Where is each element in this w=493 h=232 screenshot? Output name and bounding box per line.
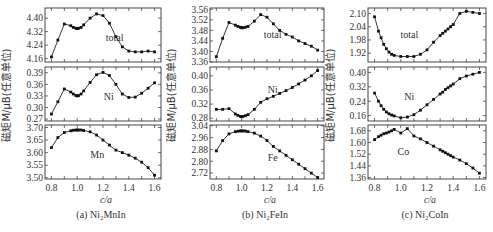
data-point: [382, 108, 385, 111]
data-point: [291, 158, 294, 161]
y-tick-label: 0.30: [26, 103, 43, 113]
data-point: [465, 162, 468, 165]
data-point: [259, 135, 262, 138]
x-tick-label: 0.8: [210, 183, 222, 193]
data-point: [215, 55, 218, 58]
data-point: [382, 43, 385, 46]
data-point: [114, 149, 117, 152]
y-tick-label: 3.60: [26, 148, 43, 158]
data-point: [385, 47, 388, 50]
data-point: [95, 134, 98, 137]
data-point: [478, 71, 481, 74]
data-point: [444, 88, 447, 91]
x-tick-label: 1.2: [421, 183, 433, 193]
chart-2: 3.363.403.443.483.523.56total0.280.320.3…: [165, 5, 324, 221]
data-point: [153, 174, 156, 177]
data-point: [478, 172, 481, 175]
data-point: [393, 128, 396, 131]
series-label: Co: [398, 146, 410, 157]
data-point: [108, 22, 111, 25]
data-point: [147, 166, 150, 169]
data-point: [236, 114, 239, 117]
y-tick-label: 2.72: [191, 168, 208, 178]
y-tick-label: 0.40: [191, 71, 208, 81]
data-point: [406, 127, 409, 130]
y-tick-label: 3.40: [191, 47, 208, 57]
data-point: [432, 98, 435, 101]
data-point: [77, 94, 80, 97]
y-tick-label: 1.68: [349, 126, 366, 136]
data-point: [412, 113, 415, 116]
panel-ni: 0.270.300.330.360.39Ni: [26, 67, 161, 124]
y-axis-label: 磁矩M/μB(任意单位): [0, 48, 12, 141]
x-tick-label: 1.6: [312, 183, 324, 193]
data-point: [452, 83, 455, 86]
y-tick-label: 3.50: [26, 173, 43, 183]
figure-canvas: 4.164.244.324.40total0.270.300.330.360.3…: [0, 0, 493, 232]
chart-1: 4.164.244.324.40total0.270.300.330.360.3…: [0, 8, 161, 221]
data-point: [72, 93, 75, 96]
data-point: [127, 154, 130, 157]
y-tick-label: 4.16: [26, 54, 43, 64]
data-point: [259, 101, 262, 104]
data-point: [377, 30, 380, 33]
data-point: [316, 69, 319, 72]
y-tick-label: 0.24: [349, 97, 366, 107]
y-tick-label: 3.65: [26, 135, 43, 145]
y-tick-label: 1.92: [349, 48, 366, 58]
data-point: [56, 39, 59, 42]
y-tick-label: 2.80: [191, 157, 208, 167]
data-point: [89, 130, 92, 133]
data-point: [441, 150, 444, 153]
y-tick-label: 4.24: [26, 40, 43, 50]
data-point: [242, 130, 245, 133]
y-tick-label: 0.16: [349, 111, 366, 121]
data-point: [388, 131, 391, 134]
data-point: [444, 30, 447, 33]
panel-ni: 0.280.320.360.40Ni: [191, 67, 324, 123]
data-point: [63, 88, 66, 91]
y-tick-label: 3.36: [191, 57, 208, 67]
figure-caption: (b) Ni₂FeIn: [242, 209, 288, 221]
data-point: [72, 129, 75, 132]
panel-fe: 2.722.802.882.963.04Fe: [191, 121, 324, 179]
data-point: [77, 27, 80, 30]
x-tick-label: 1.4: [123, 183, 135, 193]
data-point: [247, 130, 250, 133]
y-tick-label: 3.70: [26, 123, 43, 133]
data-point: [63, 23, 66, 26]
y-axis-label: 磁矩M/μB(任意单位): [165, 48, 177, 141]
data-point: [373, 92, 376, 95]
series-label: Ni: [268, 84, 278, 95]
data-point: [304, 167, 307, 170]
x-axis-label: c/a: [424, 194, 436, 205]
data-point: [244, 130, 247, 133]
data-point: [399, 55, 402, 58]
data-point: [278, 149, 281, 152]
data-point: [377, 135, 380, 138]
data-point: [458, 12, 461, 15]
data-point: [297, 83, 300, 86]
series-label: total: [264, 29, 282, 40]
data-point: [426, 141, 429, 144]
data-point: [147, 87, 150, 90]
data-point: [393, 54, 396, 57]
x-axis-label: c/a: [100, 194, 112, 205]
data-point: [82, 90, 85, 93]
data-point: [291, 86, 294, 89]
panel-ni: 0.160.240.320.40Ni: [349, 67, 486, 121]
data-point: [236, 25, 239, 28]
data-point: [102, 14, 105, 17]
data-point: [266, 97, 269, 100]
data-point: [444, 151, 447, 154]
x-tick-label: 1.0: [71, 183, 83, 193]
data-point: [388, 112, 391, 115]
x-tick-label: 0.8: [369, 183, 381, 193]
y-tick-label: 4.40: [26, 13, 43, 23]
data-point: [228, 107, 231, 110]
data-point: [95, 13, 98, 16]
data-point: [114, 83, 117, 86]
data-point: [134, 157, 137, 160]
data-point: [69, 129, 72, 132]
data-point: [242, 26, 245, 29]
